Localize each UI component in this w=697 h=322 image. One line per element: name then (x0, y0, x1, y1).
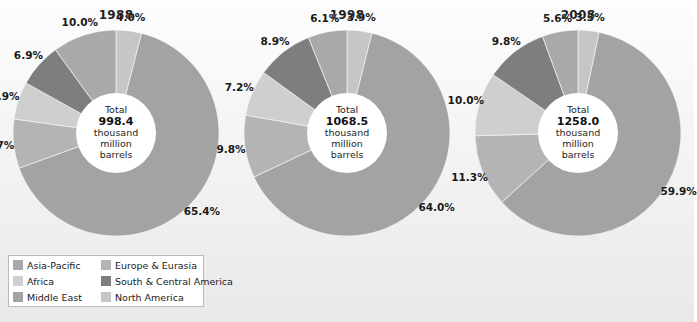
legend-item[interactable]: South & Central America (101, 273, 209, 289)
legend-item-label: Middle East (27, 292, 82, 303)
legend-swatch-icon (101, 292, 111, 302)
slice-percent-label: 59.9% (660, 185, 696, 197)
slice-percent-label: 6.1% (310, 12, 339, 24)
slice-percent-label: 5.6% (543, 12, 572, 24)
legend-item[interactable]: Asia-Pacific (13, 257, 101, 273)
slice-percent-label: 5.9% (0, 90, 20, 102)
slice-percent-label: 10.0% (62, 16, 98, 28)
chart-legend: Asia-PacificEurope & EurasiaAfricaSouth … (8, 255, 204, 307)
slice-percent-label: 9.8% (492, 35, 521, 47)
donut-center-total: Total1258.0thousandmillionbarrels (538, 93, 618, 173)
slice-percent-label: 10.0% (448, 94, 484, 106)
slice-percent-label: 65.4% (184, 205, 220, 217)
legend-item[interactable]: Europe & Eurasia (101, 257, 209, 273)
slice-percent-label: 64.0% (418, 201, 454, 213)
legend-item-label: South & Central America (115, 276, 233, 287)
legend-item[interactable]: North America (101, 289, 209, 305)
center-center-unit-line3: barrels (100, 150, 133, 161)
donut: Total1258.0thousandmillionbarrels3.3%59.… (475, 30, 681, 236)
donut: Total998.4thousandmillionbarrels4.0%65.4… (13, 30, 219, 236)
pie-chart-1988: 1988Total998.4thousandmillionbarrels4.0%… (0, 0, 232, 246)
slice-percent-label: 11.3% (451, 171, 487, 183)
legend-swatch-icon (13, 292, 23, 302)
slice-percent-label: 7.2% (225, 81, 254, 93)
slice-percent-label: 6.9% (14, 49, 43, 61)
legend-swatch-icon (13, 260, 23, 270)
legend-item-label: Europe & Eurasia (115, 260, 197, 271)
slice-percent-label: 8.9% (260, 35, 289, 47)
legend-swatch-icon (101, 260, 111, 270)
pie-chart-2008: 2008Total1258.0thousandmillionbarrels3.3… (462, 0, 694, 246)
legend-item-label: North America (115, 292, 184, 303)
slice-percent-label: 7.7% (0, 139, 14, 151)
center-center-unit-line3: barrels (331, 150, 364, 161)
donut: Total1068.5thousandmillionbarrels3.9%64.… (244, 30, 450, 236)
legend-swatch-icon (13, 276, 23, 286)
center-center-unit-line3: barrels (562, 150, 595, 161)
donut-center-total: Total1068.5thousandmillionbarrels (307, 93, 387, 173)
legend-item[interactable]: Africa (13, 273, 101, 289)
slice-percent-label: 9.8% (216, 143, 245, 155)
pie-chart-1998: 1998Total1068.5thousandmillionbarrels3.9… (231, 0, 463, 246)
slice-percent-label: 3.3% (576, 11, 605, 23)
donut-center-total: Total998.4thousandmillionbarrels (76, 93, 156, 173)
slice-percent-label: 3.9% (347, 11, 376, 23)
legend-item-label: Africa (27, 276, 54, 287)
legend-item[interactable]: Middle East (13, 289, 101, 305)
legend-item-label: Asia-Pacific (27, 260, 81, 271)
slice-percent-label: 4.0% (116, 11, 145, 23)
legend-swatch-icon (101, 276, 111, 286)
